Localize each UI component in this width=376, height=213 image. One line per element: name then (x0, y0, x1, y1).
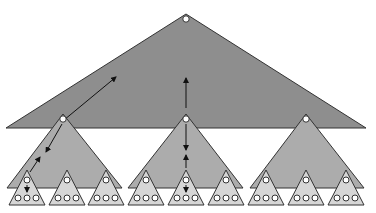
leaf-5-child-node-2 (183, 195, 189, 201)
leaf-7-child-node-2 (263, 195, 269, 201)
leaf-2-child-node-1 (55, 195, 61, 201)
leaf-4-top-node (143, 177, 149, 183)
leaf-5-top-node (183, 177, 189, 183)
leaf-1-child-node-3 (33, 195, 39, 201)
leaf-8-child-node-3 (312, 195, 318, 201)
leaf-1-child-node-2 (24, 195, 30, 201)
leaf-8-child-node-2 (303, 195, 309, 201)
leaf-8-child-node-1 (294, 195, 300, 201)
leaf-3-top-node (103, 177, 109, 183)
leaf-2-child-node-2 (64, 195, 70, 201)
leaf-7-child-node-3 (272, 195, 278, 201)
middle-node-1 (60, 116, 66, 122)
leaf-1-top-node (24, 177, 30, 183)
leaf-3-child-node-2 (103, 195, 109, 201)
leaf-5-child-node-1 (174, 195, 180, 201)
leaf-9-child-node-2 (343, 195, 349, 201)
middle-node-2 (183, 116, 189, 122)
leaf-7-child-node-1 (254, 195, 260, 201)
leaf-6-child-node-1 (214, 195, 220, 201)
middle-node-3 (303, 116, 309, 122)
leaf-2-top-node (64, 177, 70, 183)
hierarchy-diagram (0, 0, 376, 213)
leaf-3-child-node-1 (94, 195, 100, 201)
leaf-6-child-node-2 (223, 195, 229, 201)
leaf-3-child-node-3 (112, 195, 118, 201)
leaf-1-child-node-1 (15, 195, 21, 201)
leaf-2-child-node-3 (73, 195, 79, 201)
root-triangle (6, 14, 366, 128)
leaf-5-child-node-3 (192, 195, 198, 201)
leaf-9-child-node-3 (352, 195, 358, 201)
leaf-4-child-node-1 (134, 195, 140, 201)
leaf-7-top-node (263, 177, 269, 183)
leaf-6-child-node-3 (232, 195, 238, 201)
leaf-9-child-node-1 (334, 195, 340, 201)
leaf-9-top-node (343, 177, 349, 183)
root-node (183, 16, 189, 22)
leaf-4-child-node-2 (143, 195, 149, 201)
leaf-6-top-node (223, 177, 229, 183)
leaf-8-top-node (303, 177, 309, 183)
diagram-canvas (0, 0, 376, 213)
leaf-4-child-node-3 (152, 195, 158, 201)
